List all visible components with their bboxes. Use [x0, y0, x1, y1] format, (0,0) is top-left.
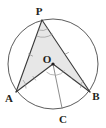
segment-oc [53, 64, 62, 108]
vertex-label-p: P [36, 5, 43, 17]
angle-arc-at-o-left [47, 72, 56, 75]
shaded-region-paob [16, 20, 90, 92]
geometry-canvas: P O A B C [0, 0, 106, 128]
geometry-figure: P O A B C [0, 0, 106, 128]
vertex-label-o: O [43, 53, 52, 65]
tick-mark-pb [65, 53, 69, 55]
vertex-label-b: B [92, 90, 100, 102]
vertex-label-a: A [5, 92, 13, 104]
vertex-label-c: C [59, 113, 67, 125]
center-point-dot [51, 62, 54, 65]
